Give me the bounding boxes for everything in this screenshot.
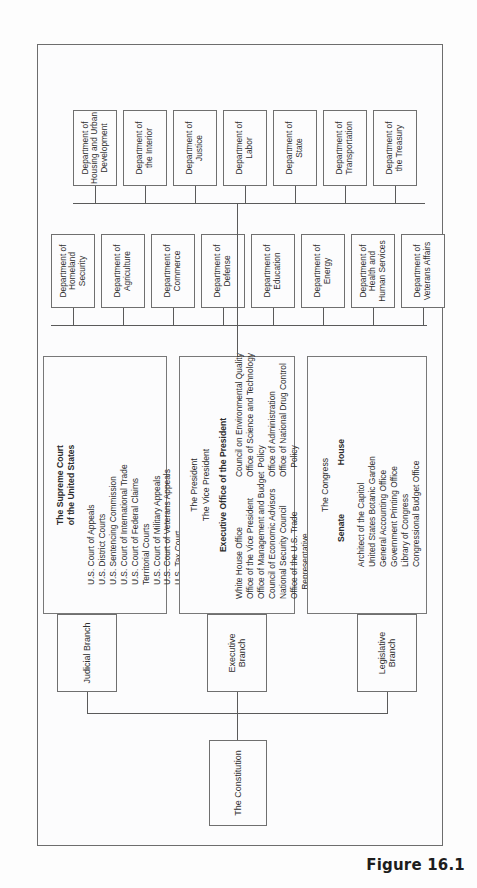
department-box: Department of Homeland Security bbox=[51, 234, 95, 308]
legislative-chamber-house: House bbox=[336, 425, 346, 479]
department-box: Department of the Treasury bbox=[373, 110, 417, 186]
department-box: Department of Health and Human Services bbox=[351, 234, 395, 308]
executive-officer-vice-president: The Vice President bbox=[201, 357, 211, 613]
department-label: Department of Health and Human Services bbox=[358, 240, 387, 301]
legislative-heading: The Congress bbox=[320, 357, 330, 613]
figure-root: The Constitution Judicial Branch Executi… bbox=[0, 0, 477, 888]
department-label: Department of Justice bbox=[185, 121, 204, 174]
panel-legislative: The Congress Senate House Architect of t… bbox=[307, 356, 427, 614]
org-chart-stage: The Constitution Judicial Branch Executi… bbox=[29, 34, 449, 854]
connector-department-stub bbox=[173, 308, 174, 326]
connector-root-to-legislative bbox=[387, 692, 388, 714]
connector-department-stub bbox=[323, 308, 324, 326]
connector-executive-to-dept-bus bbox=[237, 326, 238, 356]
node-the-constitution-label: The Constitution bbox=[232, 750, 242, 816]
department-box: Department of Labor bbox=[223, 110, 267, 186]
figure-caption: Figure 16.1 bbox=[366, 856, 465, 874]
connector-department-stub bbox=[373, 308, 374, 326]
connector-department-stub bbox=[223, 308, 224, 326]
judicial-heading-line1: The Supreme Court bbox=[55, 357, 65, 613]
department-box: Department of Justice bbox=[173, 110, 217, 186]
connector-department-stub bbox=[395, 186, 396, 204]
department-box: Department of Transportation bbox=[323, 110, 367, 186]
department-box: Department of State bbox=[273, 110, 317, 186]
panel-judicial: The Supreme Court of the United States U… bbox=[43, 356, 167, 614]
department-label: Department of Labor bbox=[235, 121, 254, 174]
department-box: Department of Housing and Urban Developm… bbox=[73, 110, 117, 186]
department-label: Department of Agriculture bbox=[113, 244, 132, 297]
panel-executive: The President The Vice President Executi… bbox=[179, 356, 295, 614]
connector-department-stub bbox=[73, 308, 74, 326]
department-label: Department of the Interior bbox=[135, 121, 154, 174]
judicial-heading-line2: of the United States bbox=[66, 357, 76, 613]
department-box: Department of Agriculture bbox=[101, 234, 145, 308]
connector-department-stub bbox=[423, 308, 424, 326]
connector-department-stub bbox=[295, 186, 296, 204]
department-box: Department of Commerce bbox=[151, 234, 195, 308]
department-label: Department of Energy bbox=[313, 244, 332, 297]
department-label: Department of Housing and Urban Developm… bbox=[80, 112, 109, 184]
connector-root-stub bbox=[237, 714, 238, 740]
connector-department-stub bbox=[273, 308, 274, 326]
eop-heading: Executive Office of the President bbox=[218, 357, 228, 613]
executive-officer-president: The President bbox=[189, 357, 199, 613]
connector-dept-bus-upper bbox=[51, 325, 427, 326]
connector-bus-upper-to-lower bbox=[237, 204, 238, 326]
legislative-chamber-senate: Senate bbox=[336, 501, 346, 555]
connector-department-stub bbox=[345, 186, 346, 204]
node-executive-branch-label: Executive Branch bbox=[226, 619, 247, 687]
department-label: Department of Transportation bbox=[335, 121, 354, 175]
connector-department-stub bbox=[245, 186, 246, 204]
department-label: Department of Veterans Affairs bbox=[413, 242, 432, 301]
department-label: Department of Education bbox=[263, 244, 282, 297]
connector-department-stub bbox=[123, 308, 124, 326]
eop-right-list: Council on Environmental Quality Office … bbox=[234, 353, 300, 477]
connector-dept-bus-lower bbox=[73, 203, 425, 204]
department-box: Department of the Interior bbox=[123, 110, 167, 186]
legislative-agencies-list: Architect of the Capitol United States B… bbox=[356, 456, 422, 567]
node-judicial-branch: Judicial Branch bbox=[57, 614, 117, 692]
connector-root-to-judicial bbox=[87, 692, 88, 714]
connector-root-to-executive bbox=[237, 692, 238, 714]
connector-department-stub bbox=[145, 186, 146, 204]
department-box: Department of Veterans Affairs bbox=[401, 234, 445, 308]
department-label: Department of Defense bbox=[213, 244, 232, 297]
node-legislative-branch: Legislative Branch bbox=[357, 614, 417, 692]
connector-department-stub bbox=[195, 186, 196, 204]
department-label: Department of Commerce bbox=[163, 244, 182, 297]
node-executive-branch: Executive Branch bbox=[207, 614, 267, 692]
department-box: Department of Energy bbox=[301, 234, 345, 308]
node-the-constitution: The Constitution bbox=[209, 740, 267, 826]
department-label: Department of Homeland Security bbox=[58, 244, 87, 297]
connector-department-stub bbox=[95, 186, 96, 204]
node-legislative-branch-label: Legislative Branch bbox=[376, 619, 397, 687]
eop-left-list: White House Office Office of the Vice Pr… bbox=[234, 472, 310, 599]
department-label: Department of the Treasury bbox=[385, 121, 404, 174]
department-box: Department of Education bbox=[251, 234, 295, 308]
node-judicial-branch-label: Judicial Branch bbox=[81, 622, 91, 683]
department-label: Department of State bbox=[285, 121, 304, 174]
